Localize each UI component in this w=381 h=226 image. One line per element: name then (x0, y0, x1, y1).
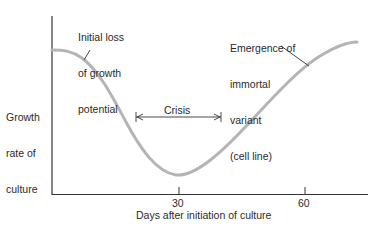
annotation-line: variant (230, 114, 295, 126)
annotation-line: immortal (230, 78, 295, 90)
x-axis-label: Days after initiation of culture (136, 209, 271, 221)
annotation-line: potential (78, 103, 124, 115)
y-label-line: Growth (6, 111, 40, 123)
y-label-line: culture (6, 183, 40, 195)
y-axis-label: Growth rate of culture (6, 87, 40, 207)
annotation-crisis: Crisis (164, 104, 190, 116)
annotation-line: Initial loss (78, 31, 124, 43)
annotation-initial-loss: Initial loss of growth potential (78, 7, 124, 127)
annotation-line: of growth (78, 67, 124, 79)
annotation-line: Emergence of (230, 42, 295, 54)
chart-plot (0, 0, 381, 226)
annotation-emergence: Emergence of immortal variant (cell line… (230, 18, 295, 174)
x-tick-label-60: 60 (298, 197, 310, 209)
x-tick-label-30: 30 (172, 197, 184, 209)
annotation-line: (cell line) (230, 150, 295, 162)
y-label-line: rate of (6, 147, 40, 159)
